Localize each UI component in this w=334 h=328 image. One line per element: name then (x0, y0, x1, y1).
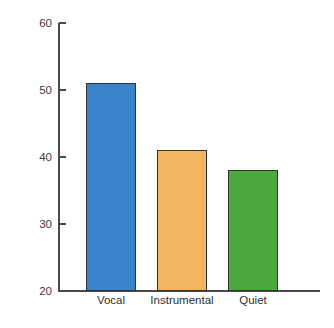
y-axis-tick-labels: 2030405060 (24, 0, 52, 328)
plot-area (59, 23, 320, 291)
y-axis-tick-label: 60 (26, 17, 52, 29)
category-label-quiet: Quiet (206, 294, 300, 306)
y-axis-tick-label: 50 (26, 84, 52, 96)
bar-chart: Percent Errors 2030405060 VocalInstrumen… (0, 0, 334, 328)
bar-instrumental[interactable] (157, 150, 207, 291)
y-axis-tick-label: 30 (26, 218, 52, 230)
bar-quiet[interactable] (228, 170, 278, 291)
x-axis-category-labels: VocalInstrumentalQuiet (59, 294, 320, 318)
y-axis-tick-label: 20 (26, 285, 52, 297)
bar-vocal[interactable] (86, 83, 136, 291)
y-axis-tick-label: 40 (26, 151, 52, 163)
